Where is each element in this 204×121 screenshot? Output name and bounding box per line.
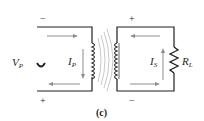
load-resistor-label: RL bbox=[181, 55, 193, 69]
secondary-bottom-sign: − bbox=[129, 95, 135, 106]
primary-coil bbox=[92, 43, 95, 79]
secondary-circuit bbox=[117, 27, 174, 91]
load-resistor bbox=[170, 47, 178, 73]
primary-bottom-sign: + bbox=[40, 95, 46, 106]
secondary-current-arrows bbox=[130, 34, 165, 86]
primary-top-sign: − bbox=[40, 13, 46, 24]
figure-caption: (c) bbox=[96, 107, 107, 119]
primary-current-arrows bbox=[47, 34, 85, 86]
primary-circuit bbox=[37, 27, 92, 91]
magnetic-flux-lines bbox=[98, 29, 113, 91]
secondary-top-sign: + bbox=[129, 13, 135, 24]
secondary-current-label: IS bbox=[149, 55, 158, 69]
secondary-coil bbox=[115, 43, 120, 79]
primary-current-label: IP bbox=[67, 55, 77, 69]
transformer-circuit-diagram: − + VP IP + − IS RL (c) bbox=[0, 0, 204, 121]
ac-source-symbol bbox=[37, 63, 45, 67]
primary-voltage-label: VP bbox=[12, 56, 24, 70]
